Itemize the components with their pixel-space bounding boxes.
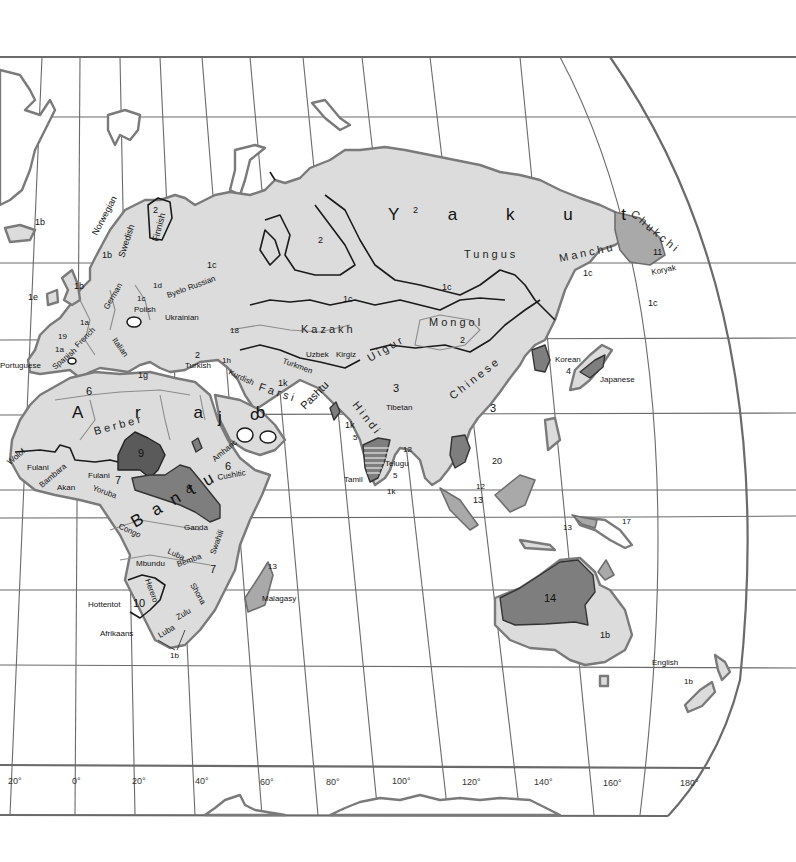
- label-siberia-1c-a: 1c: [343, 294, 353, 304]
- language-map: 1b Norwegian 1b Swedish Finnish 2 1b 1e …: [0, 0, 796, 862]
- label-indonesia-13: 13: [473, 495, 483, 505]
- label-malagasy-code: 13: [268, 562, 277, 571]
- label-polish: Polish: [134, 305, 156, 314]
- label-arab-code: 6: [86, 385, 92, 397]
- label-south-africa-code: 1b: [170, 651, 179, 660]
- label-india-12: 12: [403, 445, 412, 454]
- antarctica: [205, 795, 560, 815]
- label-basque-code: 19: [58, 332, 67, 341]
- label-mbundu: Mbundu: [136, 559, 165, 568]
- tick-40e: 40°: [195, 776, 209, 786]
- label-siberia-2: 2: [318, 235, 323, 245]
- label-fulani: Fulani: [88, 471, 110, 480]
- label-srilanka-1k: 1k: [387, 487, 396, 496]
- tick-180: 180°: [680, 778, 699, 788]
- tick-0: 0°: [72, 776, 81, 786]
- label-spanish-code: 1a: [55, 345, 64, 354]
- label-english: English: [652, 658, 678, 667]
- label-australia-english-code: 1b: [600, 630, 610, 640]
- label-kurdish-code: 1h: [222, 356, 231, 365]
- label-ganda: Ganda: [184, 523, 209, 532]
- label-tungus: Tungus: [464, 248, 518, 260]
- label-tibetan: Tibetan: [386, 403, 412, 412]
- label-tamil: Tamil: [344, 475, 363, 484]
- label-new-guinea-17: 17: [622, 517, 631, 526]
- label-australia-aboriginal: 14: [544, 592, 556, 604]
- label-india-5: 5: [353, 433, 358, 442]
- label-mongol: Mongol: [429, 316, 483, 328]
- label-far-east-1c-a: 1c: [583, 268, 593, 278]
- label-niger-congo-code: 7: [115, 474, 121, 486]
- label-ireland-code: 1e: [28, 292, 38, 302]
- label-polish-code: 1c: [137, 294, 145, 303]
- label-telugu: Telugu: [385, 459, 409, 468]
- ireland: [47, 290, 58, 305]
- label-indochina-20: 20: [492, 456, 502, 466]
- label-britain-code: 1b: [74, 281, 84, 291]
- label-french-code: 1a: [80, 318, 89, 327]
- label-new-guinea-13: 13: [563, 523, 572, 532]
- label-india-code: 1k: [345, 420, 355, 430]
- label-kazakh: Kazakh: [301, 323, 356, 335]
- label-east-africa-code: 7: [210, 563, 216, 575]
- label-koryak: Koryak: [651, 263, 678, 277]
- label-greek-code: 1g: [138, 370, 148, 380]
- label-arab: A r a b: [72, 403, 289, 422]
- label-siberia-1c-b: 1c: [442, 282, 452, 292]
- label-iran-code: 1k: [278, 378, 288, 388]
- label-chinese-code-b: 3: [490, 402, 496, 414]
- label-malagasy: Malagasy: [262, 594, 296, 603]
- label-portuguese: Portuguese: [0, 361, 41, 370]
- label-new-zealand-code: 1b: [684, 677, 693, 686]
- tick-100e: 100°: [392, 776, 411, 786]
- tick-20w: 20°: [8, 776, 22, 786]
- tick-140e: 140°: [534, 777, 553, 787]
- label-uzbek: Uzbek: [306, 350, 330, 359]
- label-turkish-code: 2: [195, 350, 200, 360]
- label-mongol-code: 2: [460, 335, 465, 345]
- label-yakut: Y a k u t: [388, 205, 648, 224]
- label-akan: Akan: [57, 483, 75, 492]
- label-caucasus-code: 18: [230, 326, 239, 335]
- label-afrikaans: Afrikaans: [100, 629, 133, 638]
- label-indochina-12: 12: [476, 482, 485, 491]
- label-korean-code: 4: [566, 366, 571, 376]
- label-finnish-code: 2: [153, 205, 158, 215]
- tick-80e: 80°: [326, 777, 340, 787]
- label-cushitic-code: 6: [225, 460, 231, 472]
- label-norway-code: 1b: [102, 250, 112, 260]
- label-japanese: Japanese: [600, 375, 635, 384]
- longitude-axis: 20° 0° 20° 40° 60° 80° 100° 120° 140° 16…: [8, 776, 699, 788]
- label-korean: Korean: [555, 355, 581, 364]
- label-turkish: Turkish: [185, 361, 211, 370]
- label-ukrainian: Ukrainian: [165, 313, 199, 322]
- label-chadic-code: 9: [138, 447, 144, 459]
- label-yakut-code: 2: [413, 205, 418, 215]
- label-kirgiz: Kirgiz: [336, 350, 356, 359]
- label-russia-1c: 1c: [207, 260, 217, 270]
- label-far-east-1c-b: 1c: [648, 298, 658, 308]
- tick-60e: 60°: [260, 777, 274, 787]
- label-khoisan-code: 10: [133, 597, 145, 609]
- label-chukchi-code: 11: [653, 247, 662, 257]
- label-iceland-code: 1b: [35, 217, 45, 227]
- label-baltic-code: 1d: [153, 281, 162, 290]
- label-fulani-west: Fulani: [27, 463, 49, 472]
- tick-160e: 160°: [603, 778, 622, 788]
- tick-20e: 20°: [132, 776, 146, 786]
- label-chinese-code-a: 3: [393, 382, 399, 394]
- tick-120e: 120°: [462, 777, 481, 787]
- label-hottentot: Hottentot: [88, 600, 121, 609]
- iceland: [5, 225, 35, 242]
- label-srilanka-5: 5: [393, 471, 398, 480]
